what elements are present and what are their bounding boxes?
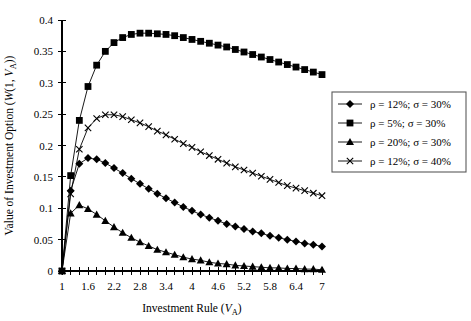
marker-diamond [214,217,222,225]
marker-triangle [93,211,101,218]
y-tick-label: 0 [48,265,54,277]
marker-cross [137,120,143,126]
marker-square [206,40,213,47]
marker-cross [163,132,169,138]
marker-square [249,51,256,58]
marker-cross [310,190,316,196]
legend-label: ρ = 12%; σ = 30% [370,98,451,110]
marker-diamond [162,194,170,202]
chart-legend: ρ = 12%; σ = 30%ρ = 5%; σ = 30%ρ = 20%; … [332,92,466,172]
marker-triangle [145,242,153,249]
series-4 [59,112,325,275]
marker-diamond [266,232,274,240]
marker-square [111,39,118,46]
marker-diamond [136,180,144,188]
marker-cross [241,167,247,173]
marker-diamond [223,220,231,228]
marker-cross [267,176,273,182]
marker-diamond [188,207,196,215]
marker-diamond [318,243,326,251]
marker-diamond [275,234,283,242]
marker-triangle [84,205,92,212]
axis-tick-labels: 00.050.10.150.20.250.30.350.411.62.22.83… [34,14,326,292]
marker-square [189,36,196,43]
marker-diamond [127,175,135,183]
marker-cross [258,173,264,179]
marker-diamond [110,164,118,172]
marker-diamond [171,199,179,207]
chart-figure: 00.050.10.150.20.250.30.350.411.62.22.83… [0,0,471,321]
marker-square [197,38,204,45]
marker-cross [293,185,299,191]
marker-diamond [292,238,300,246]
marker-square [171,32,178,39]
marker-diamond [257,229,265,237]
x-tick-label: 5.8 [263,280,277,292]
marker-diamond [84,154,92,162]
marker-cross [189,144,195,150]
x-tick-label: 3.4 [159,280,173,292]
marker-cross [197,149,203,155]
marker-cross [249,170,255,176]
marker-square [137,30,144,37]
line-chart: 00.050.10.150.20.250.30.350.411.62.22.83… [0,0,471,321]
y-tick-label: 0.35 [34,45,54,57]
marker-square [163,31,170,38]
marker-triangle [75,201,83,208]
marker-square [267,56,274,63]
marker-square [128,31,135,38]
marker-square [293,64,300,71]
x-tick-label: 1.6 [81,280,95,292]
marker-diamond [240,225,248,233]
marker-square [180,34,187,41]
marker-cross [85,125,91,131]
marker-triangle [153,246,161,253]
marker-triangle [127,234,135,241]
x-tick-label: 2.2 [107,280,121,292]
y-tick-label: 0.2 [39,140,53,152]
marker-cross [171,136,177,142]
marker-diamond [283,236,291,244]
marker-diamond [153,190,161,198]
marker-diamond [249,227,257,235]
marker-cross [232,164,238,170]
marker-square [93,62,100,69]
marker-square [310,69,317,76]
marker-cross [119,113,125,119]
marker-cross [145,123,151,129]
marker-square [301,66,308,73]
data-series [58,30,326,275]
marker-square [347,120,354,127]
marker-cross [154,128,160,134]
marker-square [67,172,74,179]
marker-diamond [119,169,127,177]
marker-cross [319,193,325,199]
marker-cross [180,140,186,146]
y-tick-label: 0.1 [39,202,53,214]
marker-diamond [309,241,317,249]
marker-cross [93,115,99,121]
x-tick-label: 6.4 [289,280,303,292]
y-tick-label: 0.4 [39,14,53,26]
marker-square [241,49,248,56]
marker-square [275,59,282,66]
marker-square [145,30,152,37]
marker-square [154,30,161,37]
marker-triangle [119,229,127,236]
marker-square [232,46,239,53]
marker-square [102,48,109,55]
legend-label: ρ = 12%; σ = 40% [370,155,451,167]
marker-diamond [93,155,101,163]
marker-square [76,117,83,124]
x-tick-label: 2.8 [133,280,147,292]
marker-triangle [110,223,118,230]
y-axis-title: Value of Investment Option (W(1, VA)) [3,55,18,235]
y-tick-label: 0.05 [34,234,54,246]
x-tick-label: 4 [189,280,195,292]
x-tick-label: 4.6 [211,280,225,292]
marker-diamond [205,214,213,222]
marker-cross [301,187,307,193]
marker-square [85,83,92,90]
x-axis-title: Investment Rule (VA) [142,302,242,317]
marker-cross [275,179,281,185]
